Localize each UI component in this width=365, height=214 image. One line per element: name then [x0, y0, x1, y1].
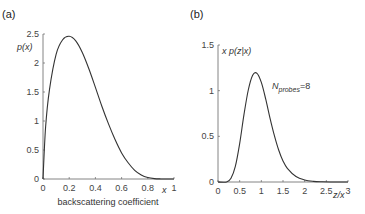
x-symbol-label: x: [161, 185, 167, 195]
x-tick-label: 0.4: [89, 183, 102, 193]
y-tick-label: 0: [34, 174, 39, 184]
x-tick-label: 0: [215, 186, 220, 196]
y-tick-label: 1: [34, 116, 39, 126]
y-tick-label: 0: [209, 177, 214, 187]
x-tick-label: 1: [171, 183, 176, 193]
x-tick-label: 0.8: [142, 183, 155, 193]
x-tick-label: 1: [259, 186, 264, 196]
y-tick-label: 1.5: [201, 40, 214, 50]
x-tick-label: 1.5: [277, 186, 290, 196]
y-tick-label: 0.5: [201, 131, 214, 141]
y-tick-label: 2: [34, 58, 39, 68]
x-axis-label: backscattering coefficient: [58, 197, 159, 207]
x-tick-label: 2: [302, 186, 307, 196]
y-tick-label: 1.5: [26, 87, 39, 97]
y-tick-label: 1: [209, 86, 214, 96]
x-axis-label: z/x: [332, 190, 345, 200]
panel-label-a: (a): [2, 8, 15, 20]
x-tick-label: 2.5: [320, 186, 333, 196]
x-tick-label: 0.2: [63, 183, 76, 193]
x-tick-label: 0.5: [233, 186, 246, 196]
chart-a: 00.20.40.60.8100.511.522.5p(x)xbackscatt…: [16, 29, 177, 207]
x-tick-label: 3: [345, 186, 350, 196]
y-axis-label: x p(z|x): [221, 46, 251, 56]
figure: (a) 00.20.40.60.8100.511.522.5p(x)xbacks…: [0, 0, 365, 214]
y-tick-label: 2.5: [26, 29, 39, 39]
chart-b: 00.511.522.5300.511.5x p(z|x)z/xNprobes=…: [201, 40, 350, 200]
panel-label-b: (b): [190, 8, 203, 20]
series-annotation: Nprobes=8: [272, 81, 310, 94]
data-line: [43, 36, 174, 179]
x-tick-label: 0: [40, 183, 45, 193]
y-tick-label: 0.5: [26, 145, 39, 155]
x-tick-label: 0.6: [115, 183, 128, 193]
y-axis-label: p(x): [16, 42, 33, 52]
